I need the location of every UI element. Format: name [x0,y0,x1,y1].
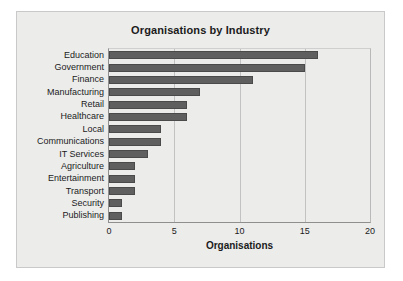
bar-healthcare [109,113,187,121]
plot-area: Education Government Finance Manufacturi… [108,48,371,223]
category-label: Local [82,125,104,134]
chart-title: Organisations by Industry [17,24,384,36]
x-axis-label: Organisations [108,240,371,251]
x-tick-label: 10 [234,226,244,236]
bar-row: Local [109,123,370,135]
bar-entertainment [109,175,135,183]
x-tick-label: 0 [106,226,111,236]
bar-communications [109,138,161,146]
chart-container: Organisations by Industry Education Gove… [16,11,385,268]
bar-it-services [109,150,148,158]
x-tick-label: 15 [300,226,310,236]
bar-row: Agriculture [109,160,370,172]
bar-row: IT Services [109,148,370,160]
bar-row: Entertainment [109,173,370,185]
x-tick-label: 5 [172,226,177,236]
bar-row: Government [109,61,370,73]
category-label: Communications [37,137,104,146]
bar-education [109,51,318,59]
bar-rows: Education Government Finance Manufacturi… [109,49,370,222]
bar-row: Manufacturing [109,86,370,98]
bar-row: Transport [109,185,370,197]
category-label: Healthcare [60,112,104,121]
category-label: IT Services [59,150,104,159]
bar-row: Healthcare [109,111,370,123]
category-label: Manufacturing [47,88,104,97]
category-label: Security [71,199,104,208]
category-label: Finance [72,75,104,84]
category-label: Agriculture [61,162,104,171]
bar-transport [109,187,135,195]
bar-finance [109,76,253,84]
bar-row: Security [109,197,370,209]
category-label: Entertainment [48,174,104,183]
bar-row: Education [109,49,370,61]
bar-row: Communications [109,136,370,148]
bar-row: Retail [109,98,370,110]
bar-government [109,64,305,72]
bar-row: Publishing [109,210,370,222]
bar-row: Finance [109,74,370,86]
category-label: Education [64,51,104,60]
bar-local [109,125,161,133]
bar-manufacturing [109,88,200,96]
category-label: Government [54,63,104,72]
bar-publishing [109,212,122,220]
bar-retail [109,101,187,109]
x-tick-label: 20 [365,226,375,236]
bar-security [109,199,122,207]
category-label: Transport [66,187,104,196]
category-label: Retail [81,100,104,109]
bar-agriculture [109,162,135,170]
category-label: Publishing [62,211,104,220]
